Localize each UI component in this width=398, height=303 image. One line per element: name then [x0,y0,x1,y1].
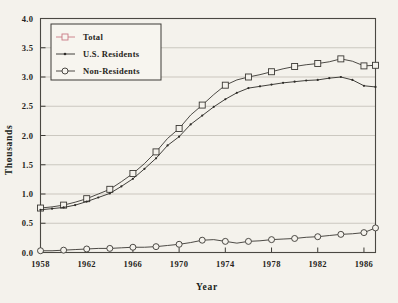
marker-u-s-residents [63,206,65,208]
legend-label-1: U.S. Residents [83,49,140,59]
marker-u-s-residents [282,82,284,84]
marker-non-residents [38,248,44,254]
marker-u-s-residents [190,123,192,125]
marker-u-s-residents [213,106,215,108]
marker-total [130,171,136,177]
marker-non-residents [315,234,321,240]
marker-u-s-residents [374,86,376,88]
marker-u-s-residents [39,209,41,211]
marker-non-residents [245,238,251,244]
marker-u-s-residents [294,81,296,83]
x-tick-label: 1978 [262,259,281,269]
y-tick-label: 2.5 [22,101,34,111]
y-tick-label: 1.5 [22,160,34,170]
x-tick-label: 1982 [308,259,327,269]
x-tick-label: 1986 [355,259,374,269]
marker-u-s-residents [351,79,353,81]
marker-total [269,69,275,75]
marker-u-s-residents [363,85,365,87]
marker-non-residents [373,225,379,231]
marker-non-residents [361,230,367,236]
marker-total [338,56,344,62]
marker-u-s-residents [201,115,203,117]
marker-u-s-residents [305,79,307,81]
marker-total [199,102,205,108]
marker-u-s-residents [340,76,342,78]
marker-non-residents [176,241,182,247]
marker-u-s-residents [74,204,76,206]
marker-total [107,186,113,192]
legend-label-2: Non-Residents [83,66,140,76]
x-axis-title: Year [196,282,218,292]
y-tick-label: 0.0 [22,248,34,258]
marker-non-residents [199,237,205,243]
marker-total [361,63,367,69]
legend-marker-dot-icon [64,53,67,56]
legend-marker-square-icon [62,34,68,40]
y-tick-label: 3.5 [22,43,34,53]
x-tick-label: 1958 [31,259,50,269]
x-tick-label: 1966 [124,259,143,269]
marker-u-s-residents [178,136,180,138]
x-tick-label: 1974 [216,259,235,269]
chart-canvas: 0.00.51.01.52.02.53.03.54.0 195819621966… [0,0,398,303]
marker-total [292,63,298,69]
marker-u-s-residents [236,92,238,94]
y-axis-title: Thousands [4,125,14,176]
y-tick-label: 4.0 [22,14,34,24]
marker-u-s-residents [224,98,226,100]
marker-u-s-residents [120,185,122,187]
marker-total [153,149,159,155]
marker-non-residents [153,244,159,250]
x-tick-label: 1970 [170,259,189,269]
x-tick-label: 1962 [77,259,96,269]
marker-u-s-residents [317,79,319,81]
marker-u-s-residents [270,84,272,86]
marker-total [222,82,228,88]
marker-u-s-residents [155,157,157,159]
marker-u-s-residents [166,144,168,146]
marker-u-s-residents [97,196,99,198]
marker-total [315,61,321,67]
legend-label-0: Total [83,32,103,42]
marker-non-residents [292,235,298,241]
y-tick-label: 0.5 [22,218,34,228]
marker-non-residents [338,231,344,237]
marker-total [373,62,379,68]
marker-non-residents [222,238,228,244]
marker-non-residents [130,244,136,250]
chart-legend: TotalU.S. ResidentsNon-Residents [51,24,161,80]
marker-u-s-residents [132,178,134,180]
marker-u-s-residents [109,192,111,194]
y-tick-label: 3.0 [22,72,34,82]
marker-non-residents [61,247,67,253]
marker-u-s-residents [247,87,249,89]
marker-non-residents [107,245,113,251]
y-tick-label: 2.0 [22,131,34,141]
marker-non-residents [84,246,90,252]
marker-u-s-residents [86,201,88,203]
marker-total [176,125,182,131]
marker-u-s-residents [328,77,330,79]
marker-non-residents [269,237,275,243]
y-tick-label: 1.0 [22,189,34,199]
line-chart: 0.00.51.01.52.02.53.03.54.0 195819621966… [0,0,398,303]
marker-u-s-residents [143,168,145,170]
legend-marker-circle-icon [62,68,68,74]
marker-total [245,74,251,80]
marker-u-s-residents [259,85,261,87]
marker-u-s-residents [51,208,53,210]
